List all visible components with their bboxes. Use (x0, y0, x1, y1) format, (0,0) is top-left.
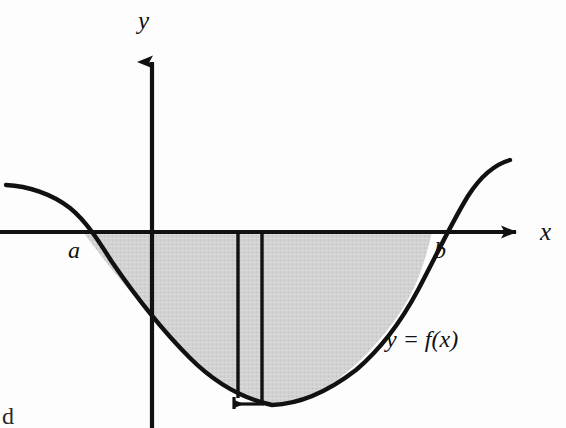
upper-limit-label-b: b (434, 238, 446, 262)
clipped-caption-fragment: d (2, 404, 14, 428)
figure-canvas (0, 0, 566, 428)
x-axis-label: x (540, 219, 551, 244)
shaded-area-region (83, 232, 432, 405)
math-figure: y x a b y = f(x) d (0, 0, 566, 428)
curve-equation-label: y = f(x) (386, 327, 458, 351)
y-axis-label: y (138, 8, 149, 33)
lower-limit-label-a: a (68, 238, 80, 262)
